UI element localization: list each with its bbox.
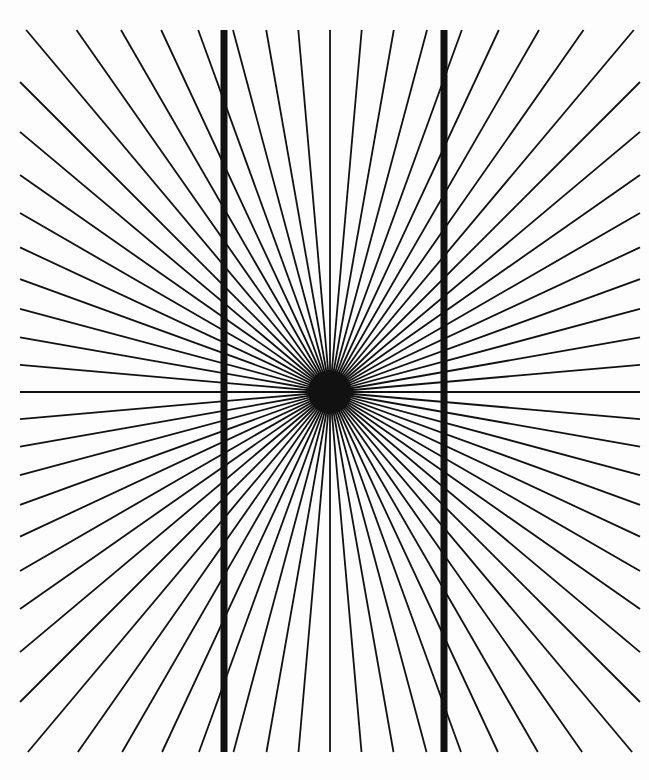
radial-ray	[20, 309, 330, 392]
right-thick-vertical-line	[441, 30, 448, 752]
radial-ray	[20, 392, 330, 419]
radial-ray	[20, 365, 330, 392]
radial-ray	[20, 392, 330, 475]
radial-ray	[330, 392, 640, 537]
radial-ray	[299, 392, 331, 752]
radial-ray	[162, 392, 330, 752]
hering-illusion-figure	[0, 0, 649, 780]
radial-ray	[330, 392, 498, 752]
center-hub	[308, 370, 352, 414]
left-thick-vertical-line	[221, 30, 228, 752]
radial-ray	[298, 30, 330, 392]
radial-ray	[20, 392, 330, 537]
radial-lines-canvas	[0, 0, 649, 780]
radial-ray	[330, 392, 427, 752]
radial-ray	[330, 30, 427, 392]
radial-ray	[330, 30, 499, 392]
radial-ray	[330, 392, 362, 752]
radial-ray	[330, 392, 640, 419]
radial-ray	[330, 365, 640, 392]
radial-ray	[20, 247, 330, 392]
radial-ray	[330, 392, 640, 475]
radial-ray	[330, 247, 640, 392]
radial-ray	[233, 30, 330, 392]
radial-ray	[330, 309, 640, 392]
radial-ray	[330, 30, 362, 392]
radial-ray	[161, 30, 330, 392]
radial-ray	[234, 392, 331, 752]
